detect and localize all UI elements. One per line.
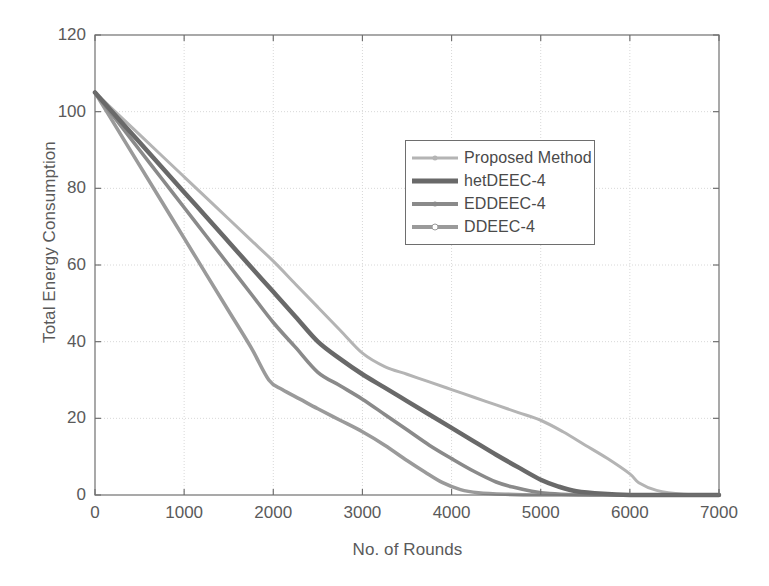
- legend-marker-dot-icon: [433, 201, 438, 206]
- x-tick-label: 7000: [679, 503, 759, 523]
- legend-item-label: DDEEC-4: [464, 218, 535, 236]
- y-tick-label: 120: [38, 25, 86, 45]
- y-tick-label: 100: [38, 102, 86, 122]
- plot-area: [0, 0, 769, 586]
- x-tick-label: 0: [55, 503, 135, 523]
- legend-item[interactable]: hetDEEC-4: [412, 169, 588, 192]
- legend-item[interactable]: EDDEEC-4: [412, 192, 588, 215]
- legend-marker-circle-icon: [432, 223, 439, 230]
- x-tick-label: 4000: [412, 503, 492, 523]
- x-tick-label: 2000: [233, 503, 313, 523]
- chart-legend[interactable]: Proposed MethodhetDEEC-4EDDEEC-4DDEEC-4: [405, 140, 595, 245]
- x-tick-label: 3000: [322, 503, 402, 523]
- legend-item-label: hetDEEC-4: [464, 172, 546, 190]
- x-tick-label: 1000: [144, 503, 224, 523]
- legend-swatch-icon: [412, 150, 458, 166]
- x-axis-label: No. of Rounds: [95, 540, 720, 560]
- y-tick-label: 40: [38, 332, 86, 352]
- x-tick-label: 5000: [501, 503, 581, 523]
- legend-swatch-icon: [412, 173, 458, 189]
- legend-item-label: EDDEEC-4: [464, 195, 546, 213]
- x-tick-label: 6000: [590, 503, 670, 523]
- chart-figure: Total Energy Consumption No. of Rounds 0…: [0, 0, 769, 586]
- legend-item[interactable]: DDEEC-4: [412, 215, 588, 238]
- y-tick-label: 60: [38, 255, 86, 275]
- legend-line-sample: [412, 178, 458, 183]
- y-tick-label: 20: [38, 408, 86, 428]
- legend-marker-dot-icon: [433, 155, 438, 160]
- y-tick-label: 0: [38, 485, 86, 505]
- y-tick-label: 80: [38, 178, 86, 198]
- legend-swatch-icon: [412, 219, 458, 235]
- legend-item[interactable]: Proposed Method: [412, 146, 588, 169]
- legend-item-label: Proposed Method: [464, 149, 592, 167]
- legend-swatch-icon: [412, 196, 458, 212]
- y-axis-ticks: 020406080100120: [0, 0, 86, 586]
- x-axis-ticks: 01000200030004000500060007000: [0, 503, 769, 533]
